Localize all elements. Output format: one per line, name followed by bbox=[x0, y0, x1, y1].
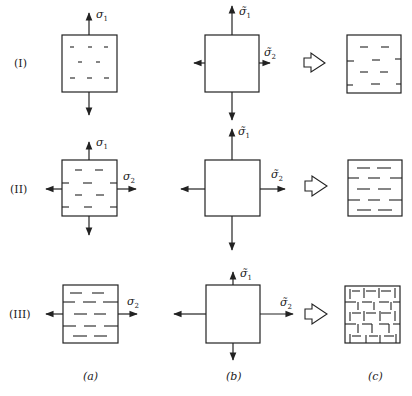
row3-col-b-specimen bbox=[174, 272, 293, 360]
sigma2-tilde-label: σ̃2 bbox=[264, 46, 276, 61]
stress-labels: σ1 σ̃1 σ̃2 σ1 σ2 σ̃1 σ̃2 σ2 σ̃1 σ̃2 bbox=[96, 5, 292, 311]
transition-arrow-icon bbox=[305, 176, 327, 196]
row1-col-c-result bbox=[347, 35, 401, 93]
row-1 bbox=[62, 6, 401, 120]
row2-col-a-specimen bbox=[46, 142, 136, 235]
caption-a: (a) bbox=[83, 370, 98, 383]
row2-col-c-result bbox=[348, 160, 402, 216]
row3-col-a-specimen bbox=[46, 285, 137, 343]
row-labels: (I) (II) (III) bbox=[9, 57, 31, 321]
row-3 bbox=[46, 272, 400, 360]
sigma1-tilde-label: σ̃1 bbox=[238, 125, 250, 140]
sigma2-tilde-label: σ̃2 bbox=[280, 296, 292, 311]
sigma1-label: σ1 bbox=[96, 136, 108, 151]
sigma2-label: σ2 bbox=[123, 170, 135, 185]
caption-c: (c) bbox=[368, 370, 383, 383]
row-label-1: (I) bbox=[14, 57, 27, 70]
caption-b: (b) bbox=[226, 370, 242, 383]
crack-pattern-diagram: (I) (II) (III) σ1 σ̃1 σ̃2 σ1 σ2 σ̃1 σ̃2 … bbox=[0, 0, 412, 396]
sigma2-tilde-label: σ̃2 bbox=[271, 168, 283, 183]
sigma2-label: σ2 bbox=[127, 295, 139, 310]
row2-col-b-specimen bbox=[181, 129, 285, 250]
sigma1-label: σ1 bbox=[96, 8, 108, 23]
row-label-3: (III) bbox=[9, 308, 31, 321]
sigma1-tilde-label: σ̃1 bbox=[239, 5, 251, 20]
row1-col-b-specimen bbox=[194, 6, 270, 120]
sigma1-tilde-label: σ̃1 bbox=[240, 267, 252, 282]
transition-arrow-icon bbox=[304, 53, 325, 72]
micro-cracks bbox=[70, 47, 109, 78]
row1-col-a-specimen bbox=[62, 13, 117, 115]
transition-arrow-icon bbox=[305, 304, 327, 324]
column-captions: (a) (b) (c) bbox=[83, 370, 383, 383]
row-label-2: (II) bbox=[10, 183, 27, 196]
row3-col-c-result bbox=[345, 286, 400, 343]
